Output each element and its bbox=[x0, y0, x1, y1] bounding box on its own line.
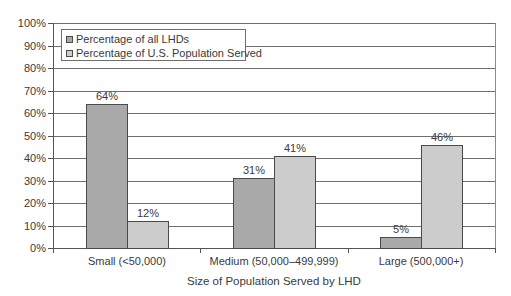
y-tick-label: 20% bbox=[2, 197, 46, 209]
y-tick-label: 90% bbox=[2, 40, 46, 52]
bar-value-label: 5% bbox=[376, 223, 426, 235]
gridline bbox=[53, 68, 495, 69]
x-tick-mark bbox=[348, 248, 349, 253]
bar-population-served bbox=[274, 156, 316, 249]
bar-value-label: 64% bbox=[82, 90, 132, 102]
bar-value-label: 12% bbox=[123, 207, 173, 219]
y-tick-label: 80% bbox=[2, 62, 46, 74]
y-tick-label: 100% bbox=[2, 17, 46, 29]
y-tick-label: 30% bbox=[2, 175, 46, 187]
x-tick-mark bbox=[53, 248, 54, 253]
y-tick-label: 40% bbox=[2, 152, 46, 164]
bar-population-served bbox=[421, 145, 463, 249]
bar-value-label: 41% bbox=[270, 142, 320, 154]
legend-item-all-lhds: Percentage of all LHDs bbox=[66, 33, 241, 46]
bar-value-label: 31% bbox=[229, 164, 279, 176]
legend-label-all-lhds: Percentage of all LHDs bbox=[76, 33, 189, 46]
gridline bbox=[53, 23, 495, 24]
legend: Percentage of all LHDs Percentage of U.S… bbox=[61, 29, 246, 61]
legend-swatch-population-served bbox=[66, 50, 73, 57]
y-tick-label: 10% bbox=[2, 220, 46, 232]
y-tick-label: 0% bbox=[2, 242, 46, 254]
legend-swatch-all-lhds bbox=[66, 36, 73, 43]
y-tick-label: 60% bbox=[2, 107, 46, 119]
y-axis-line bbox=[53, 23, 54, 249]
y-tick-label: 70% bbox=[2, 85, 46, 97]
y-tick-label: 50% bbox=[2, 130, 46, 142]
legend-label-population-served: Percentage of U.S. Population Served bbox=[76, 47, 262, 60]
legend-item-population-served: Percentage of U.S. Population Served bbox=[66, 47, 241, 60]
x-tick-label: Medium (50,000–499,999) bbox=[194, 255, 354, 267]
right-border-line bbox=[495, 23, 496, 249]
bar-chart: 0%10%20%30%40%50%60%70%80%90%100%Small (… bbox=[0, 0, 511, 296]
x-tick-mark bbox=[200, 248, 201, 253]
x-tick-label: Small (<50,000) bbox=[47, 255, 207, 267]
x-axis-title: Size of Population Served by LHD bbox=[53, 275, 495, 287]
bar-all-lhds bbox=[86, 104, 128, 249]
bar-population-served bbox=[127, 221, 169, 249]
bar-all-lhds bbox=[233, 178, 275, 249]
bar-value-label: 46% bbox=[417, 131, 467, 143]
x-tick-label: Large (500,000+) bbox=[341, 255, 501, 267]
x-tick-mark bbox=[495, 248, 496, 253]
bar-all-lhds bbox=[380, 237, 422, 249]
